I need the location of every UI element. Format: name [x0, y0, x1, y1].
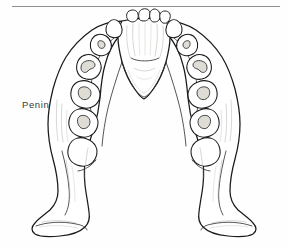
symphysis-region: [118, 18, 170, 99]
figure-page: Peninj: [0, 0, 288, 249]
arcade-interior-right: [166, 62, 186, 146]
tooth-left-lateral-incisor: [127, 10, 139, 22]
wear-facet-left-p3: [98, 41, 105, 49]
wear-facet-right-m2: [198, 115, 211, 128]
wear-facet-right-m1: [197, 87, 210, 100]
wear-facet-left-m1: [78, 87, 91, 100]
mandible-occlusal-drawing: [0, 0, 288, 249]
tooth-right-m3: [191, 138, 220, 166]
posterior-detail: [78, 148, 210, 178]
tooth-right-canine: [166, 20, 182, 38]
tooth-left-central-incisor: [139, 9, 150, 21]
wear-facet-left-m2: [77, 115, 90, 128]
symphysis-outline: [118, 18, 170, 99]
arcade-interior-left: [102, 62, 122, 146]
tooth-right-lateral-incisor: [160, 11, 171, 23]
tooth-left-m3: [68, 138, 97, 166]
tooth-right-central-incisor: [150, 9, 160, 22]
tooth-left-canine: [106, 20, 122, 38]
wear-facet-right-p3: [183, 41, 190, 49]
